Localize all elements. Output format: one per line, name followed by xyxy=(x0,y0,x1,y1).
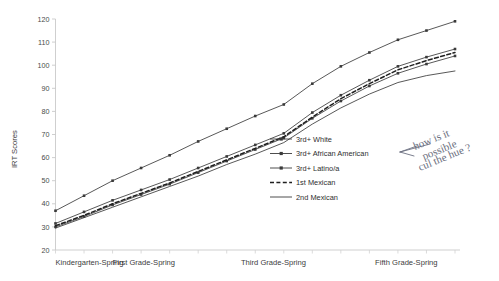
data-point-marker xyxy=(397,72,400,75)
data-point-marker xyxy=(197,140,200,143)
data-point-marker xyxy=(140,189,143,192)
y-axis-title: IRT Scores xyxy=(10,130,19,168)
legend-swatch-marker xyxy=(280,152,283,155)
data-point-marker xyxy=(340,65,343,68)
x-tick-label: Fifth Grade-Spring xyxy=(375,258,437,267)
data-point-marker xyxy=(311,82,314,85)
data-point-marker xyxy=(83,194,86,197)
data-point-marker xyxy=(368,79,371,82)
data-point-marker xyxy=(454,48,457,51)
data-point-marker xyxy=(140,167,143,170)
y-tick-label: 30 xyxy=(42,223,50,232)
y-tick-label: 100 xyxy=(38,61,50,70)
data-point-marker xyxy=(397,65,400,68)
data-point-marker xyxy=(254,115,257,118)
data-point-marker xyxy=(254,144,257,147)
legend-item-label: 2nd Mexican xyxy=(296,193,338,202)
data-point-marker xyxy=(340,100,343,103)
legend-item-label: 3rd+ White xyxy=(296,135,332,144)
data-point-marker xyxy=(425,29,428,32)
legend-swatch-marker xyxy=(280,166,283,169)
data-point-marker xyxy=(425,56,428,59)
data-point-marker xyxy=(397,38,400,41)
legend-item-label: 3rd+ African American xyxy=(296,149,369,158)
data-point-marker xyxy=(111,199,114,202)
data-point-marker xyxy=(311,111,314,114)
x-tick-label: First Grade-Spring xyxy=(113,258,175,267)
chart-figure: 1201101009080706050403020 Kindergarten-S… xyxy=(0,0,499,281)
x-tick-label: Third Grade-Spring xyxy=(241,258,306,267)
data-point-marker xyxy=(168,178,171,181)
y-tick-label: 80 xyxy=(42,107,50,116)
data-point-marker xyxy=(225,155,228,158)
data-point-marker xyxy=(454,55,457,58)
data-point-marker xyxy=(111,179,114,182)
y-tick-label: 20 xyxy=(42,246,50,255)
y-tick-label: 70 xyxy=(42,130,50,139)
data-point-marker xyxy=(282,103,285,106)
data-point-marker xyxy=(454,20,457,23)
legend-swatch-marker xyxy=(280,137,283,140)
y-tick-label: 110 xyxy=(38,38,49,47)
irt-scores-line-chart: 1201101009080706050403020 Kindergarten-S… xyxy=(0,0,499,281)
y-tick-label: 50 xyxy=(42,176,50,185)
data-point-marker xyxy=(197,167,200,170)
data-point-marker xyxy=(425,63,428,66)
y-tick-label: 90 xyxy=(42,84,50,93)
y-tick-label: 40 xyxy=(42,199,50,208)
data-point-marker xyxy=(54,209,57,212)
legend-item-label: 1st Mexican xyxy=(296,178,335,187)
data-point-marker xyxy=(282,132,285,135)
y-tick-label: 120 xyxy=(38,15,50,24)
data-point-marker xyxy=(225,127,228,130)
data-point-marker xyxy=(368,85,371,88)
data-point-marker xyxy=(83,211,86,214)
legend-item-label: 3rd+ Latino/a xyxy=(296,164,340,173)
data-point-marker xyxy=(168,154,171,157)
data-point-marker xyxy=(54,222,57,225)
data-point-marker xyxy=(368,51,371,54)
y-tick-label: 60 xyxy=(42,153,50,162)
data-point-marker xyxy=(340,94,343,97)
